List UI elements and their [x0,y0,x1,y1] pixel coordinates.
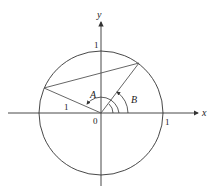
angle-inner-arc [109,104,113,113]
x-tick-label: 1 [165,117,170,127]
radius-b [101,63,139,113]
y-axis-label: y [96,9,102,20]
angle-b-label: B [131,94,137,105]
radius-length-label: 1 [64,102,69,112]
chord [44,63,139,88]
unit-circle-diagram: y x 0 1 1 1 A B [0,0,218,192]
origin-label: 0 [93,116,98,126]
y-tick-label: 1 [94,40,99,50]
angle-a-label: A [89,89,97,100]
x-axis-label: x [201,107,207,118]
